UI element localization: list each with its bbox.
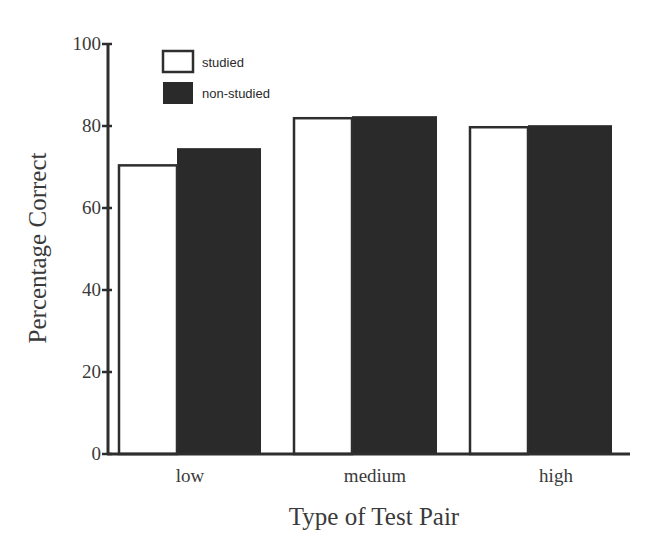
y-tick-label: 20 xyxy=(82,361,101,382)
x-tick-label-low: low xyxy=(176,465,205,486)
legend-label-studied: studied xyxy=(202,55,244,70)
bar-high-non-studied xyxy=(528,125,612,454)
y-tick-label: 80 xyxy=(82,115,101,136)
legend-swatch-studied xyxy=(163,51,193,72)
bar-low-non-studied xyxy=(177,148,261,454)
legend: studied non-studied xyxy=(163,51,270,104)
y-tick-label: 60 xyxy=(82,197,101,218)
y-tick-label: 0 xyxy=(92,443,102,464)
y-tick-label: 100 xyxy=(73,33,102,54)
x-axis-title: Type of Test Pair xyxy=(289,503,460,530)
x-tick-label-high: high xyxy=(539,465,573,486)
bar-high-studied xyxy=(470,127,528,454)
bar-medium-studied xyxy=(294,118,352,454)
bar-medium-non-studied xyxy=(352,116,437,454)
x-ticks: lowmediumhigh xyxy=(176,465,574,486)
y-tick-label: 40 xyxy=(82,279,101,300)
bar-low-studied xyxy=(119,165,177,454)
legend-swatch-non-studied xyxy=(163,82,193,104)
y-ticks: 020406080100 xyxy=(73,33,113,464)
bar-chart: 020406080100 lowmediumhigh Type of Test … xyxy=(0,0,656,559)
bars-group xyxy=(119,116,612,454)
y-axis-title: Percentage Correct xyxy=(24,153,51,344)
legend-label-non-studied: non-studied xyxy=(202,86,270,101)
x-tick-label-medium: medium xyxy=(344,465,406,486)
